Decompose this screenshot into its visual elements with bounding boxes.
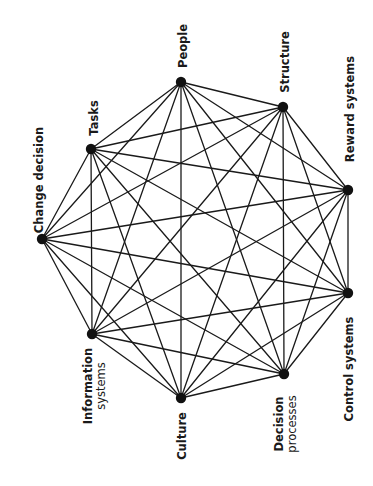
- label-line: Reward systems: [343, 56, 357, 162]
- label-reward-systems: Reward systems: [343, 56, 357, 162]
- label-line: Control systems: [342, 316, 356, 421]
- label-culture: Culture: [175, 412, 189, 460]
- label-control-systems: Control systems: [342, 316, 356, 421]
- label-line: Structure: [278, 31, 292, 93]
- node-information-systems: [87, 329, 97, 339]
- label-line: Decision: [272, 397, 286, 452]
- label-line: Information: [81, 348, 95, 424]
- label-line: Culture: [175, 412, 189, 460]
- node-control-systems: [343, 288, 353, 298]
- label-line: Change decision: [32, 127, 46, 233]
- label-tasks: Tasks: [87, 100, 101, 136]
- label-change-decision: Change decision: [32, 127, 46, 233]
- node-culture: [176, 393, 186, 403]
- node-change-decision: [37, 234, 47, 244]
- label-line: People: [176, 24, 190, 68]
- label-line: systems: [94, 362, 108, 410]
- node-reward-systems: [343, 185, 353, 195]
- node-structure: [278, 102, 288, 112]
- label-line: processes: [285, 395, 299, 452]
- node-tasks: [86, 144, 96, 154]
- node-people: [176, 77, 186, 87]
- label-decision-processes: Decisionprocesses: [272, 395, 299, 452]
- node-decision-processes: [279, 369, 289, 379]
- label-line: Tasks: [87, 100, 101, 136]
- label-people: People: [176, 24, 190, 68]
- label-structure: Structure: [278, 31, 292, 93]
- organisational-elements-network-diagram: Change decisionTasksPeopleStructureRewar…: [0, 0, 373, 486]
